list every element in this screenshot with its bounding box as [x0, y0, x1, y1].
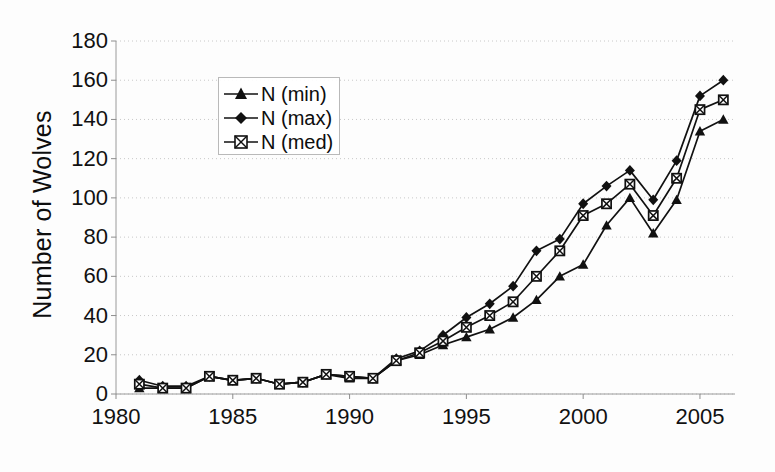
legend-marker-triangle-icon — [222, 84, 260, 104]
legend-item: N (max) — [222, 106, 339, 130]
x-tick-label: 1990 — [305, 404, 395, 430]
x-tick-label: 2000 — [538, 404, 628, 430]
legend-label: N (max) — [261, 107, 332, 130]
plot-svg — [116, 41, 735, 394]
y-tick-label: 80 — [52, 224, 108, 250]
y-tick-label: 120 — [52, 146, 108, 172]
legend-label: N (min) — [261, 83, 327, 106]
chart-legend: N (min) N (max) N (med) — [218, 77, 340, 155]
legend-marker-square-x-icon — [222, 132, 260, 152]
x-tick-label: 1985 — [188, 404, 278, 430]
legend-item: N (med) — [222, 130, 339, 154]
y-tick-label: 180 — [52, 28, 108, 54]
legend-item: N (min) — [222, 82, 339, 106]
y-axis-tick-labels: 020406080100120140160180 — [48, 0, 108, 472]
legend-marker-diamond-icon — [222, 108, 260, 128]
y-tick-label: 60 — [52, 263, 108, 289]
x-tick-label: 1995 — [421, 404, 511, 430]
x-tick-label: 1980 — [71, 404, 161, 430]
wolf-population-chart: Number of Wolves 02040608010012014016018… — [0, 0, 775, 472]
y-tick-label: 140 — [52, 106, 108, 132]
y-tick-label: 40 — [52, 303, 108, 329]
x-tick-label: 2005 — [655, 404, 745, 430]
legend-label: N (med) — [261, 131, 333, 154]
plot-area — [116, 41, 735, 394]
series-n-min — [134, 114, 728, 392]
y-tick-label: 160 — [52, 67, 108, 93]
y-tick-label: 20 — [52, 342, 108, 368]
y-tick-label: 100 — [52, 185, 108, 211]
